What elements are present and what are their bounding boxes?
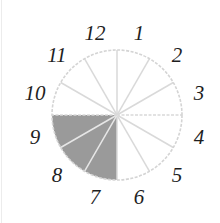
sector-label-1: 1 [134, 21, 145, 45]
sector-label-5: 5 [172, 163, 183, 187]
sector-label-3: 3 [193, 81, 205, 105]
divider-line [117, 83, 173, 116]
divider-line [117, 59, 150, 115]
sector-label-8: 8 [52, 163, 63, 187]
sector-label-2: 2 [172, 43, 183, 67]
sector-label-10: 10 [24, 81, 46, 105]
divider-line [85, 59, 118, 115]
sector-label-4: 4 [194, 125, 205, 149]
fraction-circle-diagram: 123456789101112 [0, 0, 220, 223]
divider-line [117, 115, 150, 171]
divider-line [117, 115, 173, 148]
sector-label-12: 12 [85, 21, 107, 45]
sector-label-11: 11 [47, 43, 66, 67]
sector-label-9: 9 [30, 125, 41, 149]
sector-label-7: 7 [90, 185, 102, 209]
sector-label-6: 6 [134, 185, 145, 209]
divider-line [61, 83, 117, 116]
